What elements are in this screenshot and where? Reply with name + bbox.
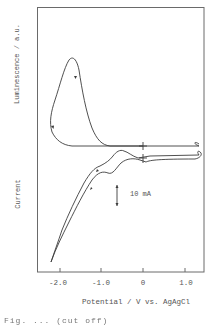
x-ticks: [60, 268, 185, 272]
luminescence-curve: [51, 58, 199, 146]
x-tick-label: 0: [141, 279, 146, 287]
figure-caption-partial: Fig. ... (cut off): [4, 316, 108, 325]
scale-bar-label: 10 mA: [130, 190, 151, 198]
plot-frame: [38, 8, 205, 273]
scale-bar: [116, 185, 119, 206]
current-curve-return: [51, 153, 201, 262]
y-axis-label-current: Current: [14, 174, 22, 214]
arrow-icon: [74, 76, 77, 79]
x-tick-label: -2.0: [49, 279, 67, 287]
arrow-icon: [96, 169, 99, 172]
x-tick-label: 1.0: [179, 279, 193, 287]
current-curve-forward: [51, 150, 201, 262]
arrow-icon: [90, 187, 93, 190]
x-tick-label: -1.0: [92, 279, 110, 287]
x-axis-label: Potential / V vs. AgAgCl: [82, 298, 190, 306]
y-axis-label-luminescence: Luminescence / a.u.: [13, 19, 21, 109]
